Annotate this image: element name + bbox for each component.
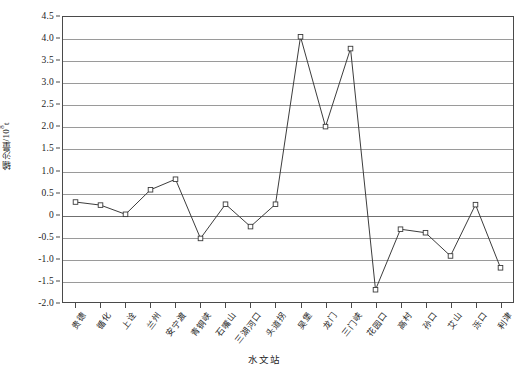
x-tick-mark — [426, 303, 427, 308]
data-point-marker — [348, 46, 353, 51]
x-tick-label: 循化 — [92, 309, 113, 331]
plot-area — [62, 16, 514, 303]
x-tick-mark — [401, 303, 402, 308]
x-tick-mark — [451, 303, 452, 308]
y-tick-mark — [56, 280, 60, 281]
y-tick-label: -2.0 — [38, 298, 54, 308]
x-tick-mark — [100, 303, 101, 308]
x-tick-label: 三门峡 — [338, 309, 364, 338]
x-tick-mark — [301, 303, 302, 308]
y-tick-mark — [56, 214, 60, 215]
x-tick-mark — [275, 303, 276, 308]
y-tick-mark — [56, 303, 60, 304]
y-tick-label: 3.0 — [42, 77, 54, 87]
data-point-marker — [73, 200, 78, 205]
data-point-marker — [98, 203, 103, 208]
data-point-marker — [498, 266, 503, 271]
x-tick-mark — [200, 303, 201, 308]
y-tick-mark — [56, 170, 60, 171]
y-tick-label: -0.5 — [38, 232, 54, 242]
y-tick-label: 4.0 — [42, 33, 54, 43]
x-tick-label: 安宁渡 — [162, 309, 188, 338]
data-point-marker — [148, 187, 153, 192]
data-point-marker — [173, 177, 178, 182]
y-tick-label: -1.5 — [38, 276, 54, 286]
x-tick-mark — [75, 303, 76, 308]
y-tick-mark — [56, 16, 60, 17]
y-tick-mark — [56, 258, 60, 259]
y-tick-mark — [56, 148, 60, 149]
x-tick-mark — [476, 303, 477, 308]
x-axis-title: 水文站 — [0, 352, 528, 366]
x-tick-mark — [326, 303, 327, 308]
y-tick-label: 0 — [49, 210, 54, 220]
x-tick-label: 花园口 — [363, 309, 389, 338]
x-tick-mark — [501, 303, 502, 308]
data-point-marker — [198, 236, 203, 241]
x-tick-label: 泺口 — [469, 309, 490, 331]
y-tick-label: 0.5 — [42, 188, 54, 198]
data-point-marker — [248, 224, 253, 229]
x-tick-mark — [225, 303, 226, 308]
data-point-marker — [423, 230, 428, 235]
x-tick-mark — [125, 303, 126, 308]
x-tick-label: 艾山 — [444, 309, 465, 331]
y-tick-mark — [56, 60, 60, 61]
series-polyline — [76, 37, 501, 290]
y-tick-label: 1.0 — [42, 166, 54, 176]
data-point-marker — [398, 227, 403, 232]
x-tick-label: 龙门 — [318, 309, 339, 331]
x-axis-ticks: 贵德循化上诠兰州安宁渡青铜峡石嘴山三湖河口头道拐吴堡龙门三门峡花园口高村孙口艾山… — [62, 309, 514, 355]
x-tick-mark — [175, 303, 176, 308]
x-tick-label: 吴堡 — [293, 309, 314, 331]
y-tick-label: 3.5 — [42, 55, 54, 65]
y-tick-mark — [56, 38, 60, 39]
data-point-marker — [273, 202, 278, 207]
y-tick-label: 1.5 — [42, 143, 54, 153]
y-tick-label: -1.0 — [38, 254, 54, 264]
x-tick-label: 头道拐 — [262, 309, 288, 338]
x-tick-label: 孙口 — [419, 309, 440, 331]
x-tick-label: 利津 — [494, 309, 515, 331]
data-point-marker — [448, 254, 453, 259]
y-tick-label: 2.0 — [42, 121, 54, 131]
data-point-marker — [298, 34, 303, 39]
x-tick-mark — [376, 303, 377, 308]
y-tick-label: 2.5 — [42, 99, 54, 109]
x-tick-label: 上诠 — [117, 309, 138, 331]
y-tick-mark — [56, 192, 60, 193]
x-tick-label: 贵德 — [67, 309, 88, 331]
x-tick-mark — [250, 303, 251, 308]
data-point-marker — [123, 212, 128, 217]
y-tick-mark — [56, 126, 60, 127]
y-tick-label: 4.5 — [42, 11, 54, 21]
data-point-marker — [473, 202, 478, 207]
y-tick-mark — [56, 82, 60, 83]
x-tick-label: 青铜峡 — [187, 309, 213, 338]
y-axis-ticks: 4.54.03.53.02.52.01.51.00.50-0.5-1.0-1.5… — [0, 16, 60, 303]
y-tick-mark — [56, 104, 60, 105]
x-tick-mark — [150, 303, 151, 308]
x-tick-label: 高村 — [394, 309, 415, 331]
data-series-line — [63, 17, 513, 302]
data-point-marker — [223, 202, 228, 207]
x-tick-label: 兰州 — [143, 309, 164, 331]
data-point-marker — [373, 287, 378, 292]
data-point-marker — [323, 124, 328, 129]
x-tick-mark — [351, 303, 352, 308]
chart-figure: 输沙量/108t 4.54.03.53.02.52.01.51.00.50-0.… — [0, 0, 528, 373]
y-tick-mark — [56, 236, 60, 237]
